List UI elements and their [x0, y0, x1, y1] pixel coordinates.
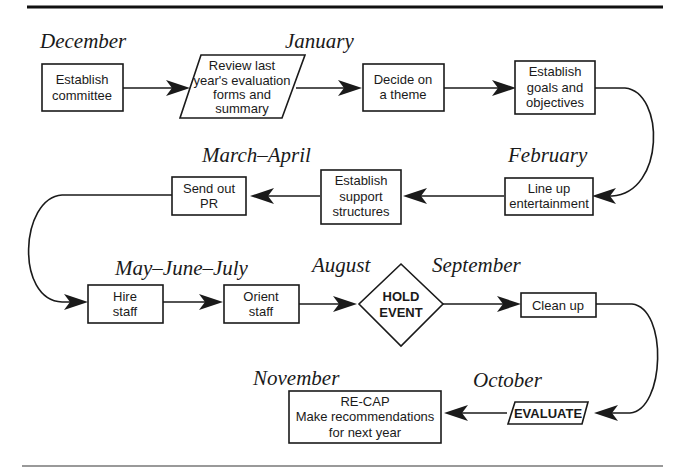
month-label-may-june-july: May–June–July: [114, 256, 249, 280]
month-label-november: November: [252, 366, 340, 390]
planning-flowchart: December January February March–April Ma…: [0, 0, 683, 471]
svg-text:PR: PR: [200, 196, 218, 211]
svg-text:summary: summary: [215, 101, 269, 116]
node-send-out-pr: Send out PR: [172, 177, 246, 215]
svg-text:committee: committee: [52, 88, 112, 103]
svg-text:Establish: Establish: [56, 72, 109, 87]
month-label-october: October: [473, 368, 543, 392]
month-label-february: February: [507, 143, 588, 167]
month-label-september: September: [432, 253, 521, 277]
month-label-january: January: [285, 29, 354, 53]
svg-text:Orient: Orient: [243, 289, 279, 304]
svg-text:HOLD: HOLD: [383, 289, 420, 304]
node-orient-staff: Orient staff: [224, 285, 299, 323]
connectors: [29, 80, 658, 421]
svg-text:Clean up: Clean up: [532, 298, 584, 313]
svg-text:goals and: goals and: [527, 80, 583, 95]
svg-text:EVALUATE: EVALUATE: [514, 406, 582, 421]
svg-text:Establish: Establish: [529, 64, 582, 79]
svg-text:EVENT: EVENT: [379, 305, 422, 320]
svg-text:staff: staff: [249, 304, 274, 319]
node-line-up-entertainment: Line up entertainment: [505, 178, 593, 215]
node-decide-theme: Decide on a theme: [363, 64, 444, 111]
node-hire-staff: Hire staff: [88, 285, 163, 323]
svg-text:a theme: a theme: [380, 87, 427, 102]
node-establish-committee: Establish committee: [42, 64, 123, 111]
svg-text:Hire: Hire: [113, 289, 137, 304]
month-label-december: December: [39, 29, 127, 53]
node-establish-goals: Establish goals and objectives: [515, 61, 595, 114]
svg-text:Send out: Send out: [183, 181, 235, 196]
svg-text:structures: structures: [332, 204, 390, 219]
svg-text:staff: staff: [113, 304, 138, 319]
node-review-last-year: Review last year's evaluation forms and …: [180, 55, 305, 118]
svg-text:Make recommendations: Make recommendations: [296, 409, 435, 424]
svg-text:objectives: objectives: [526, 95, 584, 110]
node-hold-event: HOLD EVENT: [359, 264, 443, 346]
svg-text:Line up: Line up: [528, 181, 571, 196]
svg-text:year's evaluation: year's evaluation: [193, 73, 290, 88]
svg-text:RE-CAP: RE-CAP: [340, 394, 389, 409]
svg-text:Review last: Review last: [209, 58, 276, 73]
svg-text:support: support: [339, 189, 383, 204]
month-label-august: August: [310, 253, 372, 277]
node-establish-support: Establish support structures: [321, 170, 401, 224]
svg-text:for next year: for next year: [329, 425, 402, 440]
svg-text:Establish: Establish: [335, 173, 388, 188]
node-evaluate: EVALUATE: [508, 402, 588, 424]
node-recap: RE-CAP Make recommendations for next yea…: [289, 391, 441, 443]
node-clean-up: Clean up: [521, 293, 596, 317]
svg-text:Decide on: Decide on: [374, 72, 433, 87]
svg-text:entertainment: entertainment: [509, 196, 589, 211]
svg-text:forms and: forms and: [213, 87, 271, 102]
month-label-march-april: March–April: [201, 143, 311, 167]
